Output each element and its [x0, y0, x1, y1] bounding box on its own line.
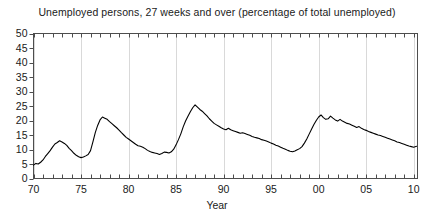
x-tick-label: 00	[313, 183, 325, 195]
x-tick-label: 80	[123, 183, 135, 195]
x-axis-title: Year	[0, 199, 434, 211]
x-tick-label: 95	[265, 183, 277, 195]
line-chart-plot: 05101520253035404550 707580859095000510	[0, 0, 434, 221]
major-tick-marks	[30, 35, 34, 180]
plot-frame	[34, 34, 418, 179]
y-tick-label: 15	[16, 129, 28, 141]
y-tick-label: 50	[16, 27, 28, 39]
x-tick-label: 10	[408, 183, 420, 195]
x-tick-label: 85	[170, 183, 182, 195]
y-tick-label: 10	[16, 143, 28, 155]
chart-figure: Unemployed persons, 27 weeks and over (p…	[0, 0, 434, 221]
x-tick-label: 75	[75, 183, 87, 195]
x-tick-label: 05	[360, 183, 372, 195]
y-tick-label: 5	[22, 158, 28, 170]
y-tick-label: 30	[16, 85, 28, 97]
y-axis-tick-labels: 05101520253035404550	[16, 27, 28, 184]
y-tick-label: 20	[16, 114, 28, 126]
gridlines	[35, 34, 415, 179]
y-tick-label: 40	[16, 56, 28, 68]
x-tick-label: 90	[218, 183, 230, 195]
y-tick-label: 35	[16, 71, 28, 83]
y-tick-label: 45	[16, 42, 28, 54]
x-tick-label: 70	[28, 183, 40, 195]
data-series-line	[34, 105, 417, 165]
y-tick-label: 25	[16, 100, 28, 112]
x-axis-tick-labels: 707580859095000510	[28, 183, 420, 195]
